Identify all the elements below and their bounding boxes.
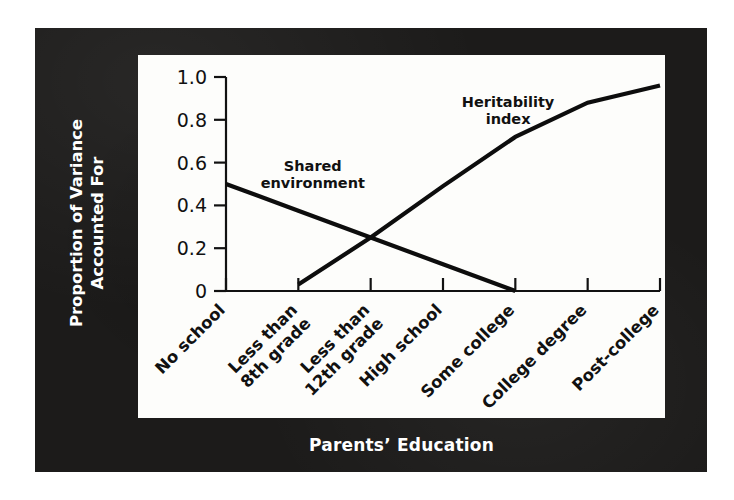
x-tick-label-group: No schoolLess than8th gradeLess than12th… xyxy=(151,300,662,412)
y-tick-group: 00.20.40.60.81.0 xyxy=(177,66,226,302)
x-tick-group xyxy=(226,278,660,291)
y-axis-title-line-1: Proportion of Variance xyxy=(65,119,86,327)
y-tick-label: 0.6 xyxy=(177,152,207,174)
line-chart-svg: 00.20.40.60.81.0 SharedenvironmentHerita… xyxy=(138,55,665,418)
series-annotation-label: Heritabilityindex xyxy=(462,94,555,127)
x-tick-label: No school xyxy=(151,300,228,377)
y-tick-label: 0 xyxy=(195,280,207,302)
x-axis-title-text: Parents’ Education xyxy=(309,435,494,455)
svg-text:Less than8th grade: Less than8th grade xyxy=(223,300,314,391)
y-axis-title: Proportion of Variance Accounted For xyxy=(35,28,138,418)
y-axis-title-text: Proportion of Variance Accounted For xyxy=(65,119,107,327)
series-annotation-label: Sharedenvironment xyxy=(261,158,365,191)
y-tick-label: 0.2 xyxy=(177,237,207,259)
y-tick-label: 0.4 xyxy=(177,194,207,216)
y-tick-label: 1.0 xyxy=(177,66,207,88)
plot-panel: 00.20.40.60.81.0 SharedenvironmentHerita… xyxy=(138,55,665,418)
x-tick-label: Less than8th grade xyxy=(223,300,314,391)
y-tick-label: 0.8 xyxy=(177,109,207,131)
svg-text:No school: No school xyxy=(151,300,228,377)
x-axis-title: Parents’ Education xyxy=(138,418,665,472)
y-axis-title-line-2: Accounted For xyxy=(87,119,108,327)
